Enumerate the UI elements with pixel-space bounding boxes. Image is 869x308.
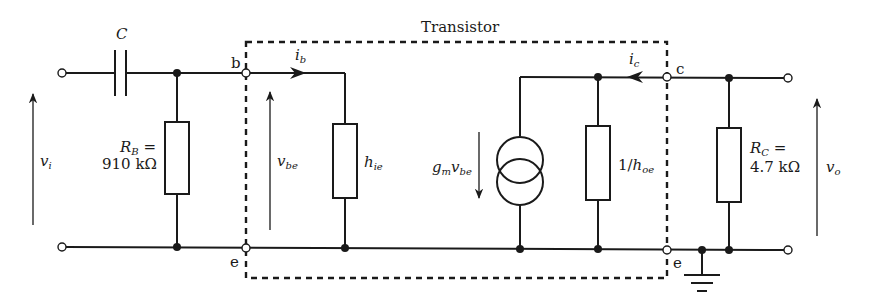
rb-label: RB = — [120, 140, 156, 155]
rb-value: 910 kΩ — [102, 157, 157, 172]
base-terminal-label: b — [231, 56, 241, 71]
vbe-label: vbe — [277, 154, 298, 169]
current-source — [497, 137, 543, 249]
vo-label: vo — [826, 160, 841, 175]
ic-label: ic — [629, 52, 639, 67]
resistor-hoe — [586, 77, 610, 249]
ib-label: ib — [295, 48, 306, 63]
vi-label: vi — [40, 154, 52, 169]
capacitor-label: C — [116, 27, 127, 42]
transistor-title: Transistor — [421, 20, 499, 35]
gm-vbe-label: gmvbe — [432, 160, 472, 175]
capacitor-c — [115, 50, 126, 96]
ground-symbol — [684, 250, 720, 291]
rc-value: 4.7 kΩ — [750, 160, 800, 175]
hoe-label: 1/hoe — [618, 158, 654, 173]
rc-label: RC = — [750, 141, 786, 156]
emitter-left-label: e — [230, 255, 239, 270]
collector-terminal-label: c — [676, 62, 684, 77]
hie-label: hie — [364, 155, 383, 170]
small-signal-circuit-diagram: Transistor C b c e e ib ic RB = 910 kΩ v… — [0, 0, 869, 308]
resistor-rc — [717, 78, 741, 250]
resistor-hie — [333, 124, 357, 248]
emitter-right-label: e — [673, 256, 682, 271]
resistor-rb — [165, 73, 189, 247]
